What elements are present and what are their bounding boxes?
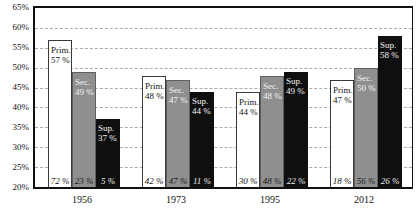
bar-value-label: 50 % [357, 83, 377, 93]
bar-label: Prim. 48 % [145, 81, 165, 101]
x-axis-year-label: 1995 [234, 194, 306, 206]
bar-primary-2012: Prim. 47 % 18 % [330, 80, 354, 187]
bar-value-label: 48 % [263, 91, 283, 101]
bar-series-name: Sec. [263, 81, 283, 91]
bar-series-name: Sec. [75, 77, 95, 87]
bar-superior-1995: Sup. 49 % 22 % [284, 72, 308, 187]
y-axis-tick-label: 45% [0, 82, 29, 93]
bar-value-label: 58 % [380, 50, 402, 60]
bar-base-value: 22 % [284, 176, 308, 186]
bar-primary-1973: Prim. 48 % 42 % [142, 76, 166, 187]
bar-group-1995: Prim. 44 % 30 % Sec. 48 % 48 % Sup. 49 %… [236, 8, 308, 187]
bar-value-label: 47 % [333, 95, 353, 105]
bar-value-label: 44 % [192, 106, 214, 116]
bar-label: Sec. 49 % [75, 77, 95, 97]
x-axis-year-label: 1956 [46, 194, 118, 206]
bar-label: Prim. 47 % [333, 85, 353, 105]
bar-label: Prim. 44 % [239, 97, 259, 117]
y-axis-tick-label: 40% [0, 102, 29, 113]
bar-series-name: Prim. [145, 81, 165, 91]
bar-primary-1956: Prim. 57 % 72 % [48, 40, 72, 187]
bar-chart-figure: 65% 60% 55% 50% 45% 40% 35% 30% 25% 20% … [0, 0, 419, 212]
y-axis-tick-label: 55% [0, 42, 29, 53]
bar-group-1956: Prim. 57 % 72 % Sec. 49 % 23 % Sup. 37 %… [48, 8, 120, 187]
bar-base-value: 42 % [143, 176, 165, 186]
bar-base-value: 56 % [355, 176, 377, 186]
bar-superior-1956: Sup. 37 % 5 % [96, 119, 120, 187]
bar-series-name: Sec. [357, 73, 377, 83]
bar-group-2012: Prim. 47 % 18 % Sec. 50 % 56 % Sup. 58 %… [330, 8, 402, 187]
bar-label: Sec. 47 % [169, 85, 189, 105]
bar-secondary-1973: Sec. 47 % 47 % [166, 80, 190, 187]
bar-label: Sup. 58 % [380, 40, 402, 60]
bar-value-label: 49 % [75, 87, 95, 97]
bar-series-name: Prim. [333, 85, 353, 95]
bar-secondary-2012: Sec. 50 % 56 % [354, 68, 378, 187]
bar-value-label: 57 % [51, 55, 71, 65]
y-axis-tick-label: 25% [0, 162, 29, 173]
bar-label: Sup. 44 % [192, 96, 214, 116]
bar-label: Prim. 57 % [51, 45, 71, 65]
bar-label: Sup. 49 % [286, 76, 308, 96]
bar-base-value: 72 % [49, 176, 71, 186]
bar-secondary-1956: Sec. 49 % 23 % [72, 72, 96, 187]
plot-area: Prim. 57 % 72 % Sec. 49 % 23 % Sup. 37 %… [33, 6, 413, 189]
bar-group-1973: Prim. 48 % 42 % Sec. 47 % 47 % Sup. 44 %… [142, 8, 214, 187]
bar-base-value: 30 % [237, 176, 259, 186]
bar-base-value: 18 % [331, 176, 353, 186]
y-axis-tick-label: 65% [0, 2, 29, 13]
bar-label: Sec. 50 % [357, 73, 377, 93]
bar-series-name: Sup. [286, 76, 308, 86]
x-axis-year-label: 2012 [328, 194, 400, 206]
y-axis-tick-label: 50% [0, 62, 29, 73]
y-axis-tick-label: 30% [0, 142, 29, 153]
y-axis-tick-label: 60% [0, 22, 29, 33]
bar-label: Sec. 48 % [263, 81, 283, 101]
bar-series-name: Sup. [192, 96, 214, 106]
bar-series-name: Sup. [380, 40, 402, 50]
bar-primary-1995: Prim. 44 % 30 % [236, 92, 260, 188]
y-axis-tick-label: 35% [0, 122, 29, 133]
bar-value-label: 48 % [145, 91, 165, 101]
y-axis-tick-label: 20% [0, 182, 29, 193]
bar-value-label: 49 % [286, 86, 308, 96]
x-axis-year-label: 1973 [140, 194, 212, 206]
bar-value-label: 47 % [169, 95, 189, 105]
bar-base-value: 5 % [96, 176, 120, 186]
bar-base-value: 48 % [261, 176, 283, 186]
bar-superior-1973: Sup. 44 % 11 % [190, 92, 214, 188]
bar-value-label: 44 % [239, 107, 259, 117]
bar-label: Sup. 37 % [98, 123, 120, 143]
bar-series-name: Sup. [98, 123, 120, 133]
bar-base-value: 47 % [167, 176, 189, 186]
bar-base-value: 11 % [190, 176, 214, 186]
bar-series-name: Prim. [51, 45, 71, 55]
bar-base-value: 26 % [378, 176, 402, 186]
bar-value-label: 37 % [98, 133, 120, 143]
bar-series-name: Sec. [169, 85, 189, 95]
bar-secondary-1995: Sec. 48 % 48 % [260, 76, 284, 187]
bar-superior-2012: Sup. 58 % 26 % [378, 36, 402, 187]
bar-series-name: Prim. [239, 97, 259, 107]
bar-base-value: 23 % [73, 176, 95, 186]
